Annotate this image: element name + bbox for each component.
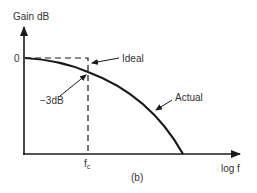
y-tick-zero-label: 0 (14, 53, 20, 64)
panel-label: (b) (131, 172, 143, 183)
x-axis-label: log f (221, 163, 240, 174)
x-tick-cutoff-label: fc (84, 158, 91, 170)
minus3db-pointer-arrow (60, 75, 86, 96)
frequency-response-diagram: Gain dB 0 Ideal −3dB Actual fc log f (b) (0, 0, 257, 193)
actual-label: Actual (175, 92, 203, 103)
minus3db-label: −3dB (40, 95, 64, 106)
y-axis-label: Gain dB (13, 11, 49, 22)
ideal-response-line (25, 58, 88, 154)
ideal-label: Ideal (122, 53, 144, 64)
ideal-pointer-arrow (92, 58, 119, 63)
cutoff-subscript: c (87, 163, 91, 170)
actual-pointer-arrow (156, 100, 172, 110)
actual-response-curve (25, 58, 183, 154)
